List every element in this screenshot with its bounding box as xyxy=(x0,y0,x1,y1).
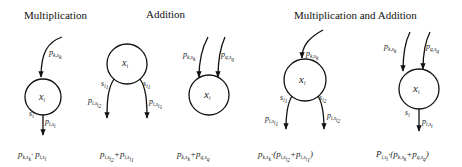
in-edge-left-arrow xyxy=(199,37,208,77)
title-multiplication-and-addition: Multiplication and Addition xyxy=(294,9,417,21)
diagram-multiplication: xi pk,sk si pi,si pk,sk·pi,si xyxy=(17,37,62,162)
formula: pk,sk·(pi,si2+pi,si1) xyxy=(257,149,313,163)
diagram-mult-add-split: xi pk,sk si1 si2 pi,si1 pi,si2 pk,sk·(pi… xyxy=(257,30,341,163)
diagram-mult-add-merge: xi pk,sk pq,sq si pi,si Pi,si·(pk,sk+pq,… xyxy=(375,32,439,162)
formula: Pi,si·(pk,sk+pq,sq) xyxy=(375,149,429,162)
in-edge-right-label: pq,sq xyxy=(425,42,439,54)
node-label: xi xyxy=(203,88,211,101)
formula: pk,sk·pi,si xyxy=(17,149,47,162)
state-label: si xyxy=(29,109,34,119)
state-label-left: si1 xyxy=(101,79,109,90)
out-edge-label: pi,si xyxy=(421,117,433,129)
title-multiplication: Multiplication xyxy=(24,9,87,21)
out-edge-label: pi,si xyxy=(44,117,56,129)
out-edge-left-label: pi,si2 xyxy=(87,96,102,109)
diagram-addition-merge: xi pk,sk pq,sq pk,sk+pq,sq xyxy=(176,37,234,162)
state-label-right: si2 xyxy=(319,93,327,104)
in-edge-left-label: pk,sk xyxy=(182,50,196,62)
diagram-canvas: Multiplication Addition Multiplication a… xyxy=(0,0,462,167)
node-label: xi xyxy=(412,82,420,95)
out-edge-right-label: pi,si1 xyxy=(148,97,163,110)
out-edge-left-label: pi,si1 xyxy=(264,114,279,127)
title-addition: Addition xyxy=(146,8,186,20)
node-label: xi xyxy=(121,57,128,69)
node-label: xi xyxy=(38,91,45,103)
formula: pk,sk+pq,sq xyxy=(176,149,210,162)
in-edge-left-arrow xyxy=(403,32,410,71)
state-label-left: si1 xyxy=(280,93,288,104)
node-label: xi xyxy=(298,73,306,86)
diagram-addition-split: xi si1 si1 pi,si2 pi,si1 pi,si2+pi,si1 xyxy=(87,44,163,163)
in-edge-left-label: pk,sk xyxy=(383,42,397,54)
in-edge-right-label: pq,sq xyxy=(220,50,234,62)
in-edge-label: pk,sk xyxy=(48,48,62,60)
formula: pi,si2+pi,si1 xyxy=(99,149,134,163)
state-label: si xyxy=(405,108,410,118)
out-edge-right-label: pi,si2 xyxy=(326,111,341,124)
